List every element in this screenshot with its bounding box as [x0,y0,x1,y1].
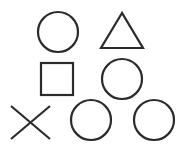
circle-shape-top-left [38,12,78,52]
shapes-svg [0,0,183,146]
circle-shape-bottom-right [134,100,174,140]
square-shape [41,63,73,95]
shapes-diagram [0,0,183,146]
triangle-shape [101,13,143,48]
circle-shape-bottom-middle [71,100,111,140]
cross-shape [11,106,50,139]
circle-shape-middle-right [102,59,142,99]
